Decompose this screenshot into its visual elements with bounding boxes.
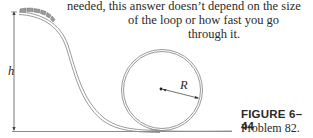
height-label: h [8,64,14,79]
descending-track [19,12,160,133]
loop-track [122,50,233,132]
radius-label: R [180,78,188,93]
figure-caption-subtitle: Problem 82. [241,121,300,136]
